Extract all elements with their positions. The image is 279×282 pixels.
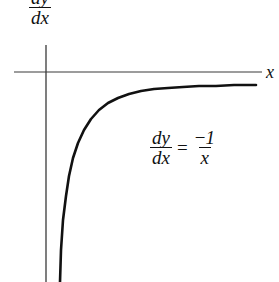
equation-left-denominator: dx <box>150 147 172 167</box>
y-axis-label-numerator: dy <box>29 0 51 7</box>
equation-right-fraction: −1 x <box>193 128 217 168</box>
equation-left-numerator: dy <box>150 128 172 147</box>
equation-right-numerator: −1 <box>193 128 217 147</box>
derivative-graph-figure: dy dx x dy dx = −1 x <box>0 0 279 282</box>
plot-canvas <box>0 0 279 282</box>
equation-right-numerator-value: 1 <box>205 127 215 148</box>
y-axis-label-denominator: dx <box>29 7 51 27</box>
curve-dy-dx <box>60 85 256 282</box>
equals-sign: = <box>172 137 193 159</box>
y-axis-label-fraction: dy dx <box>29 0 51 28</box>
x-axis-label: x <box>266 62 274 83</box>
equation-right-denominator: x <box>199 147 211 167</box>
equation-left-fraction: dy dx <box>150 128 172 168</box>
y-axis-label: dy dx <box>29 0 51 28</box>
equation-annotation: dy dx = −1 x <box>150 128 217 168</box>
minus-sign: − <box>195 127 206 148</box>
